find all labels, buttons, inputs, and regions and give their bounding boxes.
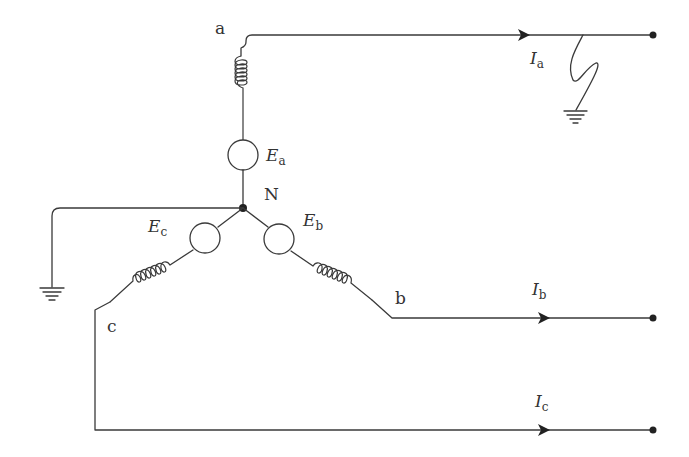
neutral-to-ec-wire <box>218 208 243 227</box>
ec-to-coil-wire <box>170 250 193 265</box>
neutral-to-eb-wire <box>243 208 268 227</box>
eb-to-coil-wire <box>291 251 313 266</box>
phase-b-conductor <box>372 300 653 318</box>
source-label-eb: Eb <box>303 212 323 232</box>
current-label-ib: Ib <box>532 281 546 301</box>
terminal-c-dot <box>650 427 657 434</box>
source-ec-icon <box>190 223 220 253</box>
current-label-ia: Ia <box>530 50 544 70</box>
current-label-ic: Ic <box>535 393 548 413</box>
phase-b-winding-coil <box>313 263 372 300</box>
circuit-schematic <box>0 0 689 457</box>
phase-c-conductor <box>95 302 653 430</box>
fault-path-zigzag <box>570 35 597 110</box>
phase-a-conductor <box>241 35 653 56</box>
node-label-b: b <box>395 290 406 307</box>
source-label-ec: Ec <box>148 218 167 238</box>
phase-c-winding-coil <box>110 262 170 302</box>
circuit-diagram: a N b c Ea Eb Ec Ia Ib Ic <box>0 0 689 457</box>
source-label-ea: Ea <box>266 147 286 167</box>
source-eb-icon <box>264 224 294 254</box>
node-label-n: N <box>264 186 279 203</box>
phase-a-winding-coil <box>235 56 247 140</box>
neutral-ground-icon <box>40 288 64 300</box>
node-label-c: c <box>107 318 117 335</box>
fault-ground-icon <box>564 111 587 123</box>
node-label-a: a <box>215 20 225 37</box>
terminal-a-dot <box>650 32 657 39</box>
source-ea-icon <box>228 140 258 170</box>
terminal-b-dot <box>650 315 657 322</box>
